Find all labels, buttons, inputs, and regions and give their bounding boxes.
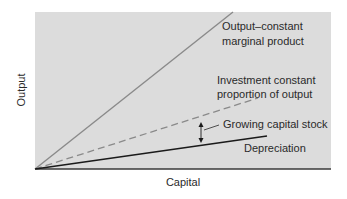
y-axis-label: Output — [15, 73, 27, 106]
x-axis-label: Capital — [166, 176, 200, 188]
growing-capital-stock-label: Growing capital stock — [223, 118, 328, 130]
investment-line-label-2: proportion of output — [217, 88, 312, 100]
output-line-label-1: Output–constant — [222, 20, 303, 32]
investment-line-label-1: Investment constant — [217, 74, 315, 86]
output-line-label-2: marginal product — [222, 35, 304, 47]
capital-output-diagram: Output–constant marginal product Investm… — [0, 0, 347, 199]
depreciation-line-label: Depreciation — [244, 142, 306, 154]
